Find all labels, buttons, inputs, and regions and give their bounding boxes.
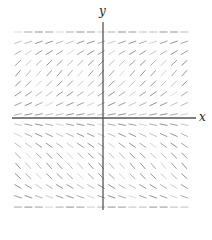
slope-segment [130,153,136,159]
slope-segment [160,51,167,55]
slope-segment [25,92,32,97]
slope-segment [150,133,157,136]
slope-segment [88,163,93,169]
slope-segment [151,163,156,169]
slope-segment [56,51,63,55]
slope-segment [56,184,63,188]
slope-segment [46,60,52,66]
slope-segment [119,163,124,169]
slope-segment [57,163,62,169]
slope-segment [67,60,73,66]
slope-segment [161,153,167,159]
slope-segment [77,51,84,55]
slope-segment [181,41,189,44]
slope-segment [15,70,20,76]
slope-segment [77,41,85,44]
slope-segment [171,143,178,148]
slope-segment [160,114,168,116]
slope-segment [171,173,177,179]
slope-segment [56,143,63,148]
slope-segment [180,114,188,116]
slope-segment [129,102,136,105]
slope-segment [108,41,116,44]
slope-segment [109,173,115,179]
slope-segment [160,133,167,136]
slope-segment [160,41,168,44]
slope-segment [36,70,41,76]
slope-segment [118,195,126,198]
slope-segment [161,70,166,76]
slope-segment [15,163,20,169]
slope-segment [149,41,157,44]
slope-segment [160,195,168,198]
slope-segment [160,92,167,97]
slope-segment [67,92,74,97]
slope-segment [88,153,94,159]
slope-segment [97,114,105,116]
slope-segment [35,124,43,126]
slope-segment [128,114,136,116]
slope-segment [46,153,52,159]
slope-segment [180,124,188,126]
slope-segment [67,143,74,148]
slope-segment [130,163,135,169]
slope-segment [150,173,156,179]
slope-segment [57,81,63,87]
slope-segment [129,195,137,198]
slope-segment [181,195,189,198]
slope-segment [181,92,188,97]
slope-segment [36,60,42,66]
slope-segment [182,70,187,76]
slope-segment [161,173,167,179]
slope-segment [140,60,146,66]
slope-segment [171,60,177,66]
slope-segment [77,184,84,188]
slope-segment [97,41,105,44]
slope-segment [56,102,63,105]
slope-segment [88,70,93,76]
slope-segment [87,114,95,116]
slope-segment [87,41,95,44]
slope-segment [171,92,178,97]
slope-segment [26,173,32,179]
slope-segment [108,133,115,136]
slope-segment [67,184,74,188]
slope-segment [24,124,32,126]
slope-segment [119,70,124,76]
slope-segment [182,60,188,66]
slope-segment [15,92,22,97]
slope-segment [181,184,188,188]
slope-segment [119,173,125,179]
slope-segment [45,195,53,198]
slope-segment [109,153,115,159]
slope-segment [109,70,114,76]
slope-segment [87,195,95,198]
slope-segment [87,133,94,136]
slope-segment [56,124,64,126]
slope-segment [88,173,94,179]
slope-segment [118,114,126,116]
slope-segment [129,41,137,44]
slope-segment [15,51,22,55]
slope-segment [77,143,84,148]
slope-segment [149,124,157,126]
slope-segment [171,184,178,188]
slope-segment [46,102,53,105]
slope-segment [129,133,136,136]
slope-segment [47,70,52,76]
slope-segment [36,153,42,159]
slope-segment [45,114,53,116]
slope-segment [24,114,32,116]
slope-segment [129,184,136,188]
slope-segment [170,195,178,198]
slope-segment [35,41,43,44]
slope-segment [36,92,43,97]
slope-segment [160,124,168,126]
slope-segment [25,133,32,136]
slope-segment [119,60,125,66]
slope-segment [66,195,74,198]
slope-segment [161,60,167,66]
slope-segment [139,133,146,136]
slope-segment [14,114,22,116]
slope-segment [14,41,22,44]
